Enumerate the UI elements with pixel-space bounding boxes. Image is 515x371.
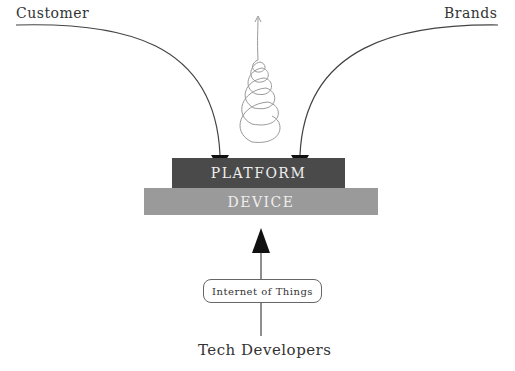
platform-box: PLATFORM <box>172 158 345 188</box>
device-box: DEVICE <box>144 188 378 215</box>
device-up-arrowhead <box>252 228 270 253</box>
brands-label: Brands <box>444 5 498 21</box>
device-label: DEVICE <box>227 194 294 210</box>
spiral-icon <box>240 18 280 142</box>
tech-developers-label: Tech Developers <box>198 341 331 359</box>
platform-label: PLATFORM <box>211 165 306 181</box>
brands-curve <box>300 25 498 155</box>
customer-label: Customer <box>16 5 89 21</box>
iot-box: Internet of Things <box>203 279 322 303</box>
customer-curve <box>16 25 220 155</box>
iot-label: Internet of Things <box>212 286 313 297</box>
